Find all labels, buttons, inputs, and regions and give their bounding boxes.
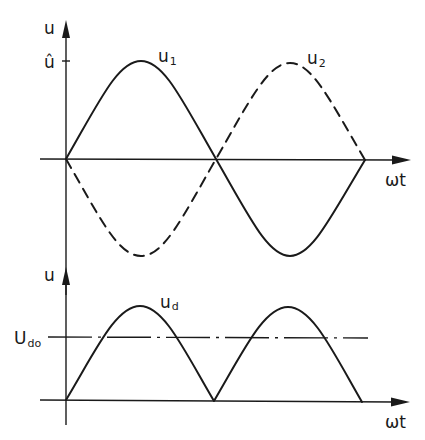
top-x-axis <box>40 159 396 160</box>
u2-label: u2 <box>307 48 326 70</box>
ud-label: ud <box>160 292 179 313</box>
peak-label: û <box>44 52 55 72</box>
top-chart: u û u1 u2 ωt <box>40 18 411 295</box>
u1-label: u1 <box>158 46 177 68</box>
bottom-x-axis-label: ωt <box>385 412 406 432</box>
bottom-y-axis-arrow-icon <box>62 267 70 285</box>
curve-ud <box>66 306 362 402</box>
top-y-axis-label: u <box>44 18 55 38</box>
udo-label: Udo <box>14 328 41 350</box>
bottom-x-axis-arrow-icon <box>391 398 410 407</box>
top-y-axis-arrow-icon <box>62 20 70 38</box>
bottom-x-axis <box>40 400 395 402</box>
top-x-axis-arrow-icon <box>392 156 411 165</box>
bottom-y-axis-label: u <box>44 265 55 285</box>
udo-mean-line <box>48 337 368 338</box>
bottom-chart: u ud Udo ωt <box>14 265 410 432</box>
rectifier-voltage-diagram: u û u1 u2 ωt u ud Udo ωt <box>0 0 425 440</box>
top-x-axis-label: ωt <box>385 170 406 190</box>
